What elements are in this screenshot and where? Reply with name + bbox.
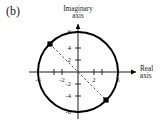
y-tick-label-2: 2: [68, 56, 71, 63]
x-tick-label-2: 2: [92, 76, 95, 83]
argand-diagram-plot: -6 -2 2 6 6 4 2 -2 -4 -6 Imaginary axis …: [0, 0, 163, 127]
y-tick-label--6: -6: [66, 108, 72, 115]
y-tick-label-4: 4: [68, 44, 72, 51]
x-tick-label-6: 6: [116, 76, 120, 83]
axis-group: [29, 24, 136, 119]
y-tick-label--4: -4: [66, 92, 72, 99]
x-tick-label--6: -6: [35, 76, 41, 83]
root-point-lower-right: [103, 97, 108, 102]
complex-plane-figure: (b): [0, 0, 163, 127]
real-axis-arrow-icon: [131, 70, 136, 75]
root-point-upper-left: [47, 41, 52, 46]
imaginary-axis-title-line2: axis: [72, 12, 84, 20]
y-tick-label--2: -2: [66, 80, 72, 87]
real-axis-title-line2: axis: [140, 72, 152, 80]
x-tick-label--2: -2: [59, 76, 65, 83]
imaginary-axis-arrow-icon: [76, 24, 81, 29]
